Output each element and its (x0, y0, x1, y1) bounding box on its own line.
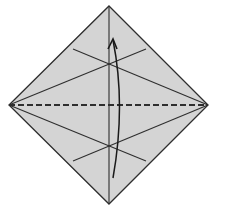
origami-diagram (0, 0, 225, 210)
